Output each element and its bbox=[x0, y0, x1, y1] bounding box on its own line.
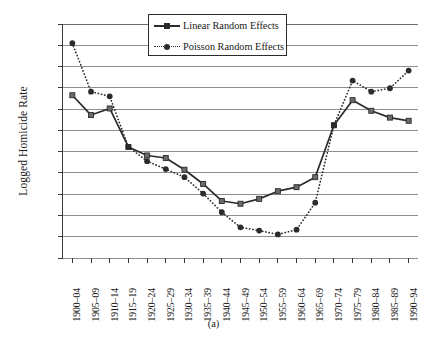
x-axis-tick-label: 1985–89 bbox=[388, 288, 399, 322]
y-axis-tick-mark bbox=[58, 109, 63, 110]
x-axis-tick-label: 1930–34 bbox=[183, 288, 194, 322]
x-axis-tick-mark bbox=[221, 258, 222, 263]
series-line-linear bbox=[72, 95, 408, 203]
x-axis-tick-mark bbox=[277, 258, 278, 263]
data-point-marker bbox=[406, 118, 411, 123]
x-axis-tick-mark bbox=[72, 258, 73, 263]
data-point-marker bbox=[275, 189, 280, 194]
y-axis-tick-mark bbox=[58, 45, 63, 46]
y-axis-tick-mark bbox=[58, 66, 63, 67]
x-axis-tick-label: 1950–54 bbox=[258, 288, 269, 322]
x-axis-tick-mark bbox=[165, 258, 166, 263]
x-axis-tick-mark bbox=[352, 258, 353, 263]
data-point-marker bbox=[313, 175, 318, 180]
data-point-marker bbox=[69, 40, 75, 46]
data-point-marker bbox=[368, 89, 374, 95]
data-point-marker bbox=[88, 89, 94, 95]
x-axis-tick-mark bbox=[389, 258, 390, 263]
y-axis-tick-mark bbox=[58, 24, 63, 25]
x-axis-tick-label: 1960–64 bbox=[295, 288, 306, 322]
x-axis-tick-label: 1975–79 bbox=[351, 288, 362, 322]
figure-caption: (a) bbox=[0, 318, 427, 329]
x-axis-tick-label: 1965–69 bbox=[314, 288, 325, 322]
y-axis-tick-mark bbox=[58, 151, 63, 152]
data-point-marker bbox=[144, 158, 150, 164]
figure-container: Logged Homicide Rate 0.60.50.40.30.20.10… bbox=[0, 0, 427, 340]
x-axis-tick-mark bbox=[91, 258, 92, 263]
y-axis-tick-mark bbox=[58, 258, 63, 259]
data-point-marker bbox=[163, 156, 168, 161]
y-axis-tick-mark bbox=[58, 172, 63, 173]
data-point-marker bbox=[163, 166, 169, 172]
y-axis-tick-mark bbox=[58, 194, 63, 195]
data-point-marker bbox=[201, 181, 206, 186]
x-axis-tick-mark bbox=[296, 258, 297, 263]
x-axis-tick-mark bbox=[109, 258, 110, 263]
series-group bbox=[63, 24, 418, 258]
data-point-marker bbox=[331, 122, 337, 128]
legend-item-poisson: Poisson Random Effects bbox=[149, 36, 286, 57]
data-point-marker bbox=[107, 93, 113, 99]
x-axis-tick-mark bbox=[408, 258, 409, 263]
x-axis-tick-mark bbox=[333, 258, 334, 263]
x-axis-tick-label: 1935–39 bbox=[202, 288, 213, 322]
data-point-marker bbox=[89, 113, 94, 118]
data-point-marker bbox=[257, 196, 262, 201]
data-point-marker bbox=[294, 227, 300, 233]
data-point-marker bbox=[238, 224, 244, 230]
x-axis-tick-label: 1970–74 bbox=[332, 288, 343, 322]
data-point-marker bbox=[387, 85, 393, 91]
x-axis-tick-mark bbox=[184, 258, 185, 263]
data-point-marker bbox=[219, 198, 224, 203]
data-point-marker bbox=[219, 209, 225, 215]
x-axis-tick-mark bbox=[259, 258, 260, 263]
x-axis-tick-label: 1905–09 bbox=[90, 288, 101, 322]
x-axis-tick-label: 1990–94 bbox=[407, 288, 418, 322]
x-axis-tick-label: 1980–84 bbox=[370, 288, 381, 322]
data-point-marker bbox=[350, 78, 356, 84]
legend-swatch-poisson-dotted-circle bbox=[154, 42, 180, 52]
legend-label-poisson: Poisson Random Effects bbox=[183, 41, 284, 52]
data-point-marker bbox=[369, 108, 374, 113]
x-axis-tick-label: 1940–44 bbox=[220, 288, 231, 322]
y-axis-tick-mark bbox=[58, 130, 63, 131]
x-axis-tick-mark bbox=[371, 258, 372, 263]
data-point-marker bbox=[294, 185, 299, 190]
x-axis-tick-mark bbox=[203, 258, 204, 263]
data-point-marker bbox=[238, 201, 243, 206]
x-axis-tick-label: 1910–14 bbox=[108, 288, 119, 322]
x-axis-tick-mark bbox=[240, 258, 241, 263]
data-point-marker bbox=[312, 200, 318, 206]
data-point-marker bbox=[182, 167, 187, 172]
y-axis-title: Logged Homicide Rate bbox=[14, 24, 32, 258]
data-point-marker bbox=[387, 115, 392, 120]
x-axis-tick-mark bbox=[128, 258, 129, 263]
data-point-marker bbox=[145, 153, 150, 158]
data-point-marker bbox=[70, 93, 75, 98]
legend-swatch-linear-solid-square bbox=[154, 21, 180, 31]
legend-item-linear: Linear Random Effects bbox=[149, 15, 286, 36]
x-axis-tick-mark bbox=[315, 258, 316, 263]
data-point-marker bbox=[182, 174, 188, 180]
x-axis-tick-label: 1900–04 bbox=[71, 288, 82, 322]
data-point-marker bbox=[275, 231, 281, 237]
x-axis-tick-label: 1955–59 bbox=[276, 288, 287, 322]
data-point-marker bbox=[350, 98, 355, 103]
data-point-marker bbox=[125, 144, 131, 150]
y-axis-tick-mark bbox=[58, 236, 63, 237]
x-axis-tick-mark bbox=[147, 258, 148, 263]
x-axis-tick-label: 1925–29 bbox=[164, 288, 175, 322]
legend-label-linear: Linear Random Effects bbox=[183, 20, 279, 31]
y-axis-tick-mark bbox=[58, 215, 63, 216]
chart-legend: Linear Random Effects Poisson Random Eff… bbox=[148, 14, 287, 56]
data-point-marker bbox=[107, 106, 112, 111]
y-axis-tick-mark bbox=[58, 87, 63, 88]
data-point-marker bbox=[256, 228, 262, 234]
data-point-marker bbox=[200, 191, 206, 197]
x-axis-tick-label: 1945–49 bbox=[239, 288, 250, 322]
data-point-marker bbox=[406, 68, 412, 74]
plot-area: 0.60.50.40.30.20.10–0.1–0.2–0.3–0.4–0.51… bbox=[62, 24, 418, 259]
x-axis-tick-label: 1915–19 bbox=[127, 288, 138, 322]
x-axis-tick-label: 1920–24 bbox=[146, 288, 157, 322]
